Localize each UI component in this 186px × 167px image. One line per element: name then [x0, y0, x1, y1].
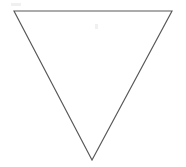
triangle-figure — [0, 0, 186, 167]
figure-canvas — [0, 0, 186, 167]
